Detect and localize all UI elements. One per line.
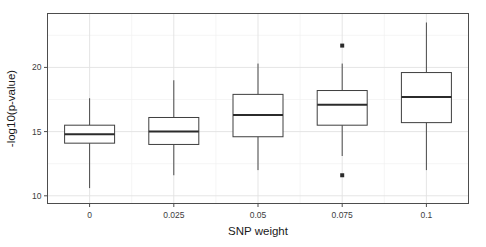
box-iqr [317, 91, 367, 126]
x-tick-label: 0.075 [332, 210, 354, 220]
x-tick-label: 0 [87, 210, 92, 220]
x-axis-title: SNP weight [228, 225, 289, 237]
x-tick-label: 0.05 [250, 210, 267, 220]
x-tick-label: 0.025 [163, 210, 185, 220]
y-tick-label: 20 [32, 62, 42, 72]
outlier-point [340, 173, 344, 177]
plot-svg: 101520 00.0250.050.0750.1 SNP weight -lo… [0, 0, 486, 247]
x-tick-label: 0.1 [420, 210, 432, 220]
y-tick-label: 10 [32, 191, 42, 201]
y-tick-label: 15 [32, 127, 42, 137]
y-axis-title: -log10(p-value) [5, 70, 17, 148]
boxplot-chart: 101520 00.0250.050.0750.1 SNP weight -lo… [0, 0, 486, 247]
outlier-point [340, 44, 344, 48]
